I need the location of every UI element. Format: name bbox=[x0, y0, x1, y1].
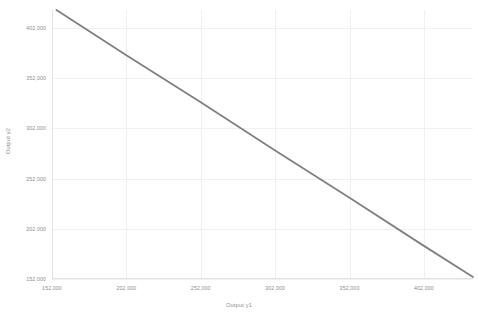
x-axis-tick-label: 302,000 bbox=[245, 285, 305, 291]
y-axis-title: Output y2 bbox=[5, 111, 11, 171]
data-line-frontier bbox=[56, 10, 473, 277]
plot-area bbox=[52, 10, 473, 279]
y-axis-title-wrapper: Output y2 bbox=[0, 0, 14, 321]
series-layer bbox=[52, 10, 473, 279]
x-axis-tick-label: 252,000 bbox=[171, 285, 231, 291]
gridline-horizontal bbox=[52, 279, 473, 280]
chart-container: 152,000202,000252,000302,000352,000402,0… bbox=[0, 0, 478, 321]
x-axis-tick-label: 352,000 bbox=[320, 285, 380, 291]
x-axis-title: Output y1 bbox=[0, 302, 478, 308]
x-axis-tick-label: 202,000 bbox=[96, 285, 156, 291]
x-axis-tick-label: 152,000 bbox=[22, 285, 82, 291]
x-axis-tick-label: 402,000 bbox=[394, 285, 454, 291]
